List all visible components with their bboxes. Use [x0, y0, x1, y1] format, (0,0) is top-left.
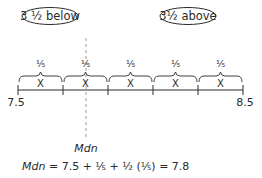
- formula-rhs: = 7.5 + ⅕ + ½ (⅕) = 7.8: [45, 160, 189, 173]
- segment-fraction: ⅕: [126, 58, 135, 69]
- segment-fraction: ⅕: [171, 58, 180, 69]
- above-count-label: 3½ above: [159, 9, 216, 23]
- formula-lhs: Mdn: [22, 160, 45, 173]
- segment-x-label: X: [217, 78, 224, 90]
- median-formula: Mdn = 7.5 + ⅕ + ½ (⅕) = 7.8: [22, 160, 189, 173]
- axis-end-label: 8.5: [236, 96, 254, 109]
- segment-x-label: X: [172, 78, 179, 90]
- below-count-label: 3 ½ below: [20, 9, 80, 23]
- segment-x-label: X: [37, 78, 44, 90]
- median-label: Mdn: [74, 142, 97, 155]
- segment-fraction: ⅕: [81, 58, 90, 69]
- segment-x-label: X: [127, 78, 134, 90]
- axis-start-label: 7.5: [7, 96, 25, 109]
- segment-x-label: X: [82, 78, 89, 90]
- segment-fraction: ⅕: [216, 58, 225, 69]
- segment-fraction: ⅕: [36, 58, 45, 69]
